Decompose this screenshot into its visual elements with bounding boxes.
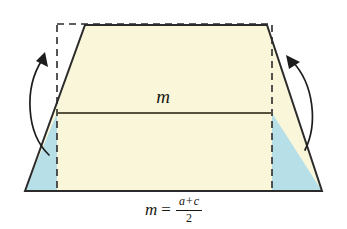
- figure-canvas: m: [0, 0, 347, 229]
- midsegment-label: m: [156, 86, 170, 107]
- trapezoid-midsegment-figure: m m = a+c 2: [0, 0, 347, 229]
